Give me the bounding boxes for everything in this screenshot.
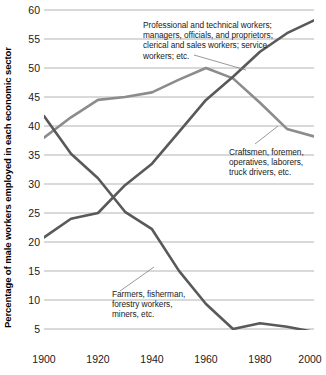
y-tick-label-5: 5 — [14, 324, 40, 334]
x-tick-label-1940: 1940 — [132, 354, 172, 365]
y-tick-label-45: 45 — [14, 92, 40, 102]
y-tick-label-25: 25 — [14, 208, 40, 218]
chart-container: Percentage of male workers employed in e… — [0, 0, 326, 375]
y-tick-label-40: 40 — [14, 121, 40, 131]
y-tick-label-20: 20 — [14, 237, 40, 247]
y-tick-label-10: 10 — [14, 295, 40, 305]
annotation-professional-sector: Professional and technical workers; mana… — [143, 20, 273, 61]
plot-area: Professional and technical workers; mana… — [44, 8, 314, 330]
x-tick-label-2000: 2000 — [290, 354, 326, 365]
y-tick-label-55: 55 — [14, 34, 40, 44]
y-tick-label-30: 30 — [14, 179, 40, 189]
annotation-craftsmen-sector: Craftsmen, foremen, operatives, laborers… — [229, 147, 304, 178]
x-tick-label-1920: 1920 — [78, 354, 118, 365]
y-tick-label-50: 50 — [14, 63, 40, 73]
annotation-farmers-sector: Farmers, fisherman, forestry workers, mi… — [112, 289, 185, 320]
series-line-craftsmen — [44, 68, 314, 138]
x-tick-label-1960: 1960 — [186, 354, 226, 365]
y-tick-label-15: 15 — [14, 266, 40, 276]
x-tick-label-1900: 1900 — [24, 354, 64, 365]
x-tick-label-1980: 1980 — [240, 354, 280, 365]
y-tick-label-60: 60 — [14, 5, 40, 15]
y-tick-label-35: 35 — [14, 150, 40, 160]
leader-line-craftsmen — [255, 126, 278, 144]
